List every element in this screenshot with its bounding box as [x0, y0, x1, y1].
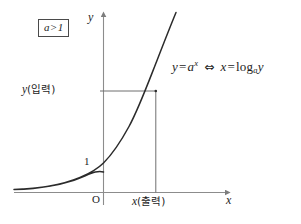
- equation-equals-left: =: [178, 59, 188, 74]
- x-axis-label: x: [226, 194, 231, 206]
- y-input-annotation: y(입력): [22, 84, 55, 96]
- exponential-curve: [14, 13, 176, 190]
- x-output-annotation: x(출력): [132, 196, 165, 208]
- y-axis-label: y: [88, 11, 93, 23]
- y-input-note: (입력): [27, 83, 55, 95]
- equation-equals-right: =: [226, 59, 236, 74]
- origin-label: O: [92, 194, 100, 205]
- condition-operator: >: [50, 21, 58, 33]
- equation-expression: y=ax⇔x=logay: [172, 60, 264, 73]
- condition-base: a: [44, 21, 50, 33]
- x-output-note: (출력): [137, 195, 165, 207]
- y-intercept-tick-label: 1: [84, 156, 90, 167]
- condition-box: a>1: [38, 19, 69, 37]
- condition-bound: 1: [58, 21, 64, 33]
- equation-log-argument: y: [258, 59, 264, 74]
- equation-iff-symbol: ⇔: [198, 60, 220, 74]
- exponential-log-figure: a>1 y x O 1 y(입력) x(출력) y=ax⇔x=logay: [0, 0, 301, 224]
- intersection-point: [155, 90, 158, 93]
- equation-log-name: log: [236, 59, 253, 74]
